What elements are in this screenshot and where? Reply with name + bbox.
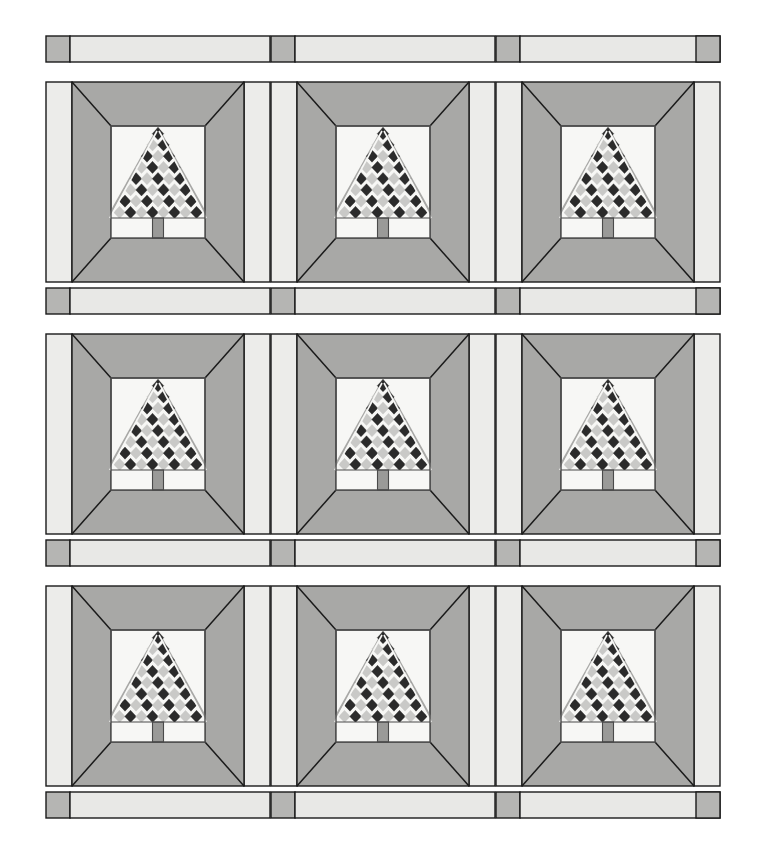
- sashing-strip: [70, 36, 270, 62]
- tree-trunk-row: [336, 722, 430, 742]
- sashing-cornerstone: [46, 288, 70, 314]
- tree-trunk: [153, 470, 164, 490]
- sashing-cornerstone: [496, 288, 520, 314]
- block-side-strip-left: [271, 334, 297, 534]
- block-side-strip-right: [244, 82, 270, 282]
- sashing-strip: [295, 792, 495, 818]
- block-side-strip-right: [469, 334, 495, 534]
- sashing-cornerstone: [46, 36, 70, 62]
- tree-block: [496, 82, 720, 282]
- tree-trunk: [603, 722, 614, 742]
- quilt-root: [46, 36, 720, 818]
- block-side-strip-left: [496, 586, 522, 786]
- sashing-cornerstone: [271, 288, 295, 314]
- block-layer: [46, 82, 720, 786]
- tree-trunk-row: [111, 218, 205, 238]
- sashing-cornerstone: [496, 540, 520, 566]
- sashing-strip: [520, 540, 720, 566]
- tree-block: [46, 586, 270, 786]
- sashing-row: [46, 288, 720, 314]
- block-side-strip-left: [46, 586, 72, 786]
- sashing-strip: [295, 288, 495, 314]
- tree-trunk-row: [111, 722, 205, 742]
- tree-block: [496, 334, 720, 534]
- block-side-strip-right: [694, 586, 720, 786]
- tree-trunk-row: [336, 218, 430, 238]
- tree-trunk-row: [111, 470, 205, 490]
- sashing-cornerstone: [271, 792, 295, 818]
- block-side-strip-right: [694, 334, 720, 534]
- block-side-strip-left: [271, 586, 297, 786]
- sashing-cornerstone: [271, 540, 295, 566]
- tree-block: [46, 334, 270, 534]
- tree-trunk-row: [561, 218, 655, 238]
- tree-trunk: [153, 218, 164, 238]
- tree-block: [271, 334, 495, 534]
- tree-trunk-row: [336, 470, 430, 490]
- tree-trunk: [603, 218, 614, 238]
- sashing-cornerstone: [696, 36, 720, 62]
- tree-trunk-row: [561, 722, 655, 742]
- tree-block: [271, 586, 495, 786]
- tree-trunk: [603, 470, 614, 490]
- sashing-strip: [295, 540, 495, 566]
- sashing-row: [46, 36, 720, 62]
- sashing-cornerstone: [46, 792, 70, 818]
- block-side-strip-right: [694, 82, 720, 282]
- block-side-strip-right: [244, 586, 270, 786]
- sashing-strip: [520, 792, 720, 818]
- tree-block: [496, 586, 720, 786]
- sashing-cornerstone: [496, 36, 520, 62]
- sashing-strip: [70, 288, 270, 314]
- sashing-cornerstone: [271, 36, 295, 62]
- tree-trunk: [378, 470, 389, 490]
- sashing-cornerstone: [696, 288, 720, 314]
- sashing-row: [46, 792, 720, 818]
- sashing-row: [46, 540, 720, 566]
- block-side-strip-right: [469, 586, 495, 786]
- sashing-strip: [295, 36, 495, 62]
- sashing-cornerstone: [496, 792, 520, 818]
- sashing-cornerstone: [46, 540, 70, 566]
- tree-trunk: [378, 218, 389, 238]
- block-side-strip-left: [46, 334, 72, 534]
- block-side-strip-right: [244, 334, 270, 534]
- quilt-pattern-canvas: [0, 0, 766, 848]
- tree-block: [271, 82, 495, 282]
- quilt-diagram: [0, 0, 766, 848]
- sashing-cornerstone: [696, 792, 720, 818]
- tree-block: [46, 82, 270, 282]
- sashing-strip: [70, 792, 270, 818]
- tree-trunk: [378, 722, 389, 742]
- block-side-strip-right: [469, 82, 495, 282]
- block-side-strip-left: [271, 82, 297, 282]
- sashing-strip: [70, 540, 270, 566]
- block-side-strip-left: [496, 82, 522, 282]
- sashing-cornerstone: [696, 540, 720, 566]
- block-side-strip-left: [496, 334, 522, 534]
- tree-trunk: [153, 722, 164, 742]
- sashing-strip: [520, 36, 720, 62]
- sashing-strip: [520, 288, 720, 314]
- block-side-strip-left: [46, 82, 72, 282]
- tree-trunk-row: [561, 470, 655, 490]
